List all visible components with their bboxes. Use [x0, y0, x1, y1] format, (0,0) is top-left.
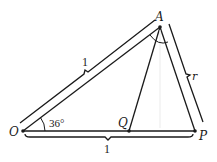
label-OA-length: 1 — [82, 55, 88, 69]
label-angle-O: 36° — [49, 117, 64, 129]
point-A — [158, 25, 162, 29]
brace-AP — [169, 24, 203, 122]
triangle-diagram: 1 r 1 36° O Q P A — [0, 0, 217, 162]
segment-OA — [23, 27, 160, 131]
point-O — [21, 129, 25, 133]
angle-arc-O — [41, 118, 46, 131]
label-point-A: A — [154, 10, 164, 24]
label-AP-length: r — [192, 70, 198, 83]
brace-OA — [20, 20, 155, 123]
label-point-Q: Q — [118, 116, 128, 130]
segment-AQ — [129, 27, 160, 131]
brace-OP — [25, 134, 193, 140]
label-point-P: P — [198, 129, 208, 143]
label-point-O: O — [9, 125, 19, 139]
point-P — [193, 129, 197, 133]
label-OP-length: 1 — [104, 142, 110, 156]
